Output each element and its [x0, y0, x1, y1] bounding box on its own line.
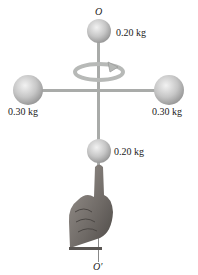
mass-top-label: 0.20 kg [116, 27, 146, 38]
sphere-bottom [87, 139, 111, 163]
mass-right-label: 0.30 kg [152, 106, 182, 117]
sphere-top [87, 19, 111, 43]
horizontal-rod [28, 89, 170, 92]
sphere-left [13, 75, 43, 105]
axis-bottom-label: O′ [93, 261, 102, 272]
mass-bottom-label: 0.20 kg [114, 146, 144, 157]
mass-left-label: 0.30 kg [8, 106, 38, 117]
sphere-right [154, 75, 184, 105]
diagram-canvas [0, 0, 198, 275]
hand-icon [69, 165, 113, 251]
axis-top-label: O [95, 6, 102, 17]
